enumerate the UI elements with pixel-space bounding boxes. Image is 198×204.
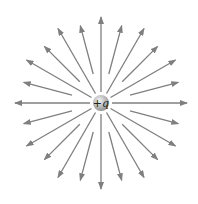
field-arrow (122, 124, 157, 159)
field-arrow (109, 132, 122, 180)
field-arrow (44, 46, 79, 81)
field-arrow (130, 82, 178, 95)
field-arrow (24, 82, 72, 95)
field-arrow (44, 124, 79, 159)
field-arrow (109, 26, 122, 74)
field-arrow (80, 26, 93, 74)
field-arrow (24, 111, 72, 124)
electric-field-diagram: +q (0, 0, 198, 204)
field-arrow (130, 111, 178, 124)
field-arrow (122, 46, 157, 81)
point-charge: +q (93, 95, 109, 111)
field-arrow (80, 132, 93, 180)
charge-label: +q (93, 97, 109, 110)
